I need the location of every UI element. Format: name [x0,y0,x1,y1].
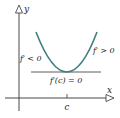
parabola-curve [36,32,97,72]
diagram-figure: y x c f′ < 0 f′ > 0 f′(c) = 0 [0,0,120,118]
left-slope-label: f′ < 0 [19,54,42,63]
c-label: c [65,102,70,112]
x-axis-label: x [107,85,112,95]
right-slope-label: f′ > 0 [92,46,115,55]
y-axis-arrow-icon [16,5,23,13]
y-axis-label: y [23,4,30,14]
x-axis-arrow-icon [106,95,114,102]
tangent-label: f′(c) = 0 [49,76,82,85]
